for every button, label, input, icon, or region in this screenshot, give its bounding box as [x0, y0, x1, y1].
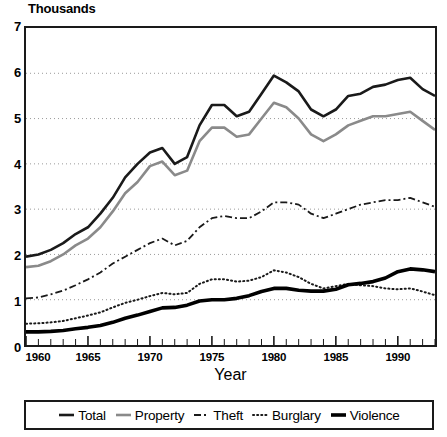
y-axis-tick-labels: 01234567	[0, 26, 21, 347]
y-axis-tick-label: 3	[3, 202, 21, 217]
x-axis-tick-label: 1990	[385, 351, 410, 363]
x-axis-ticks	[26, 336, 435, 345]
series-line-burglary	[26, 270, 435, 323]
series-line-total	[26, 76, 435, 257]
legend-item-total[interactable]: Total	[58, 408, 106, 423]
thick-solid-line-icon	[330, 409, 347, 421]
y-axis-tick-label: 6	[3, 64, 21, 79]
y-axis-tick-label: 2	[3, 248, 21, 263]
legend-item-burglary[interactable]: Burglary	[252, 408, 321, 423]
series-lines	[26, 76, 435, 332]
solid-gray-line-icon	[115, 409, 132, 421]
x-axis-title: Year	[24, 366, 437, 384]
legend-item-label: Burglary	[272, 408, 321, 423]
chart-legend: TotalPropertyTheftBurglaryViolence	[24, 400, 434, 430]
legend-item-theft[interactable]: Theft	[193, 408, 243, 423]
dashdot-line-icon	[193, 409, 210, 421]
plot-canvas	[26, 28, 435, 345]
y-axis-tick-label: 1	[3, 294, 21, 309]
legend-item-label: Property	[135, 408, 184, 423]
x-axis-tick-label: 1975	[200, 351, 225, 363]
legend-item-property[interactable]: Property	[115, 408, 184, 423]
gridlines	[26, 73, 435, 299]
x-axis-tick-labels: 1960196519701975198019851990	[24, 351, 437, 367]
y-axis-tick-label: 7	[3, 19, 21, 34]
y-axis-tick-label: 5	[3, 110, 21, 125]
legend-item-label: Theft	[213, 408, 243, 423]
legend-item-label: Violence	[350, 408, 400, 423]
series-line-property	[26, 103, 435, 267]
x-axis-tick-label: 1960	[26, 351, 51, 363]
x-axis-tick-label: 1970	[138, 351, 163, 363]
dotted-line-icon	[252, 409, 269, 421]
legend-item-label: Total	[78, 408, 106, 423]
solid-dark-line-icon	[58, 409, 75, 421]
series-line-violence	[26, 269, 435, 332]
y-axis-tick-label: 0	[3, 340, 21, 355]
x-axis-tick-label: 1980	[261, 351, 286, 363]
x-axis-tick-label: 1985	[323, 351, 348, 363]
y-axis-title: Thousands	[28, 1, 96, 16]
x-axis-tick-label: 1965	[76, 351, 101, 363]
plot-area	[24, 26, 437, 347]
y-axis-tick-label: 4	[3, 156, 21, 171]
legend-item-violence[interactable]: Violence	[330, 408, 400, 423]
chart-figure: Thousands 01234567 196019651970197519801…	[0, 0, 447, 437]
